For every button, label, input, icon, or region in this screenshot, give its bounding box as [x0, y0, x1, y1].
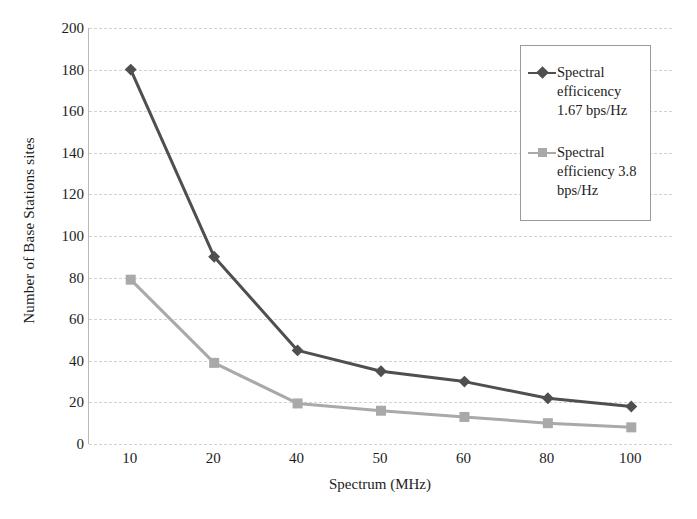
legend-entry-1[interactable]: Spectral efficicency 1.67 bps/Hz [527, 63, 649, 120]
data-point-marker [543, 418, 553, 428]
data-point-marker [125, 64, 137, 76]
series-line [131, 280, 632, 428]
x-axis-tick-label: 20 [206, 450, 221, 467]
x-axis-tick-label: 50 [373, 450, 388, 467]
y-axis-tick-label: 20 [69, 394, 84, 411]
data-point-marker [126, 275, 136, 285]
x-axis-tick-label: 40 [289, 450, 304, 467]
data-point-marker [376, 406, 386, 416]
data-point-marker [458, 376, 470, 388]
y-axis-tick-label: 180 [62, 61, 85, 78]
data-point-marker [459, 412, 469, 422]
y-axis-tick-label: 80 [69, 269, 84, 286]
y-axis-tick-label: 60 [69, 311, 84, 328]
x-axis-title: Spectrum (MHz) [88, 476, 672, 493]
y-axis-tick-label: 0 [77, 436, 85, 453]
legend-marker-swatch [538, 148, 547, 157]
y-axis-tick-label: 160 [62, 103, 85, 120]
y-axis-tick-label: 100 [62, 228, 85, 245]
y-axis-title-text: Number of Base Stations sites [21, 137, 38, 324]
series-2 [126, 275, 637, 433]
y-axis-tick-labels: 020406080100120140160180200 [40, 28, 84, 444]
data-point-marker [542, 392, 554, 404]
legend-marker-swatch [536, 66, 549, 79]
x-axis-tick-label: 10 [122, 450, 137, 467]
x-axis-tick-label: 80 [539, 450, 554, 467]
gridline [89, 444, 672, 445]
legend-label: Spectral efficicency 1.67 bps/Hz [557, 63, 649, 120]
data-point-marker [625, 401, 637, 413]
legend: Spectral efficicency 1.67 bps/HzSpectral… [520, 45, 651, 221]
y-axis-tick-label: 200 [62, 20, 85, 37]
data-point-marker [626, 422, 636, 432]
data-point-marker [293, 398, 303, 408]
x-axis-tick-labels: 102040506080100 [88, 450, 672, 474]
data-point-marker [209, 358, 219, 368]
x-axis-tick-label: 60 [456, 450, 471, 467]
legend-diamond-icon [527, 64, 557, 82]
y-axis-tick-label: 140 [62, 144, 85, 161]
y-axis-tick-label: 120 [62, 186, 85, 203]
legend-entry-2[interactable]: Spectral efficiency 3.8 bps/Hz [527, 143, 649, 200]
data-point-marker [375, 365, 387, 377]
x-axis-tick-label: 100 [619, 450, 642, 467]
legend-square-icon [527, 144, 557, 162]
legend-label: Spectral efficiency 3.8 bps/Hz [557, 143, 649, 200]
y-axis-tick-label: 40 [69, 352, 84, 369]
chart-container: Number of Base Stations sites 0204060801… [0, 0, 697, 519]
